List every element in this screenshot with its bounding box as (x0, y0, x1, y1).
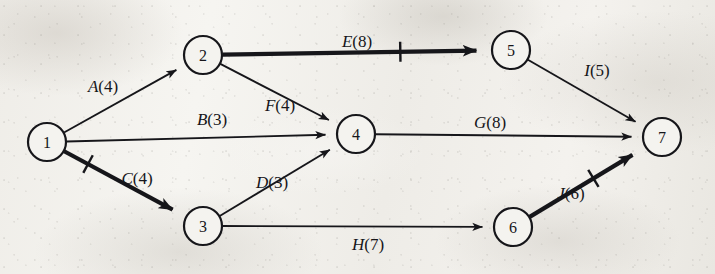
node-label-1: 1 (43, 134, 51, 151)
edge-label-J: J(6) (557, 184, 584, 203)
svg-text:H(7): H(7) (351, 235, 384, 254)
edge-C (64, 151, 172, 209)
node-4[interactable]: 4 (337, 115, 375, 153)
edge-label-B: B(3) (197, 110, 227, 129)
edge-label-G: G(8) (474, 113, 506, 132)
node-label-5: 5 (507, 42, 515, 59)
network-diagram-canvas: 1234567 A(4)B(3)C(4)D(3)E(8)F(4)G(8)H(7)… (0, 0, 715, 274)
svg-text:C(4): C(4) (121, 169, 152, 188)
node-1[interactable]: 1 (28, 123, 66, 161)
edge-label-F: F(4) (264, 96, 295, 115)
node-label-6: 6 (509, 219, 517, 236)
edge-label-H: H(7) (351, 235, 384, 254)
edge-A (64, 70, 176, 133)
node-3[interactable]: 3 (184, 207, 222, 245)
svg-text:B(3): B(3) (197, 110, 227, 129)
node-6[interactable]: 6 (494, 208, 532, 246)
nodes-layer: 1234567 (28, 31, 681, 246)
edge-I (528, 60, 636, 122)
svg-text:D(3): D(3) (255, 173, 288, 192)
svg-text:A(4): A(4) (87, 77, 118, 96)
svg-text:E(8): E(8) (341, 32, 372, 51)
svg-text:G(8): G(8) (474, 113, 506, 132)
edge-label-C: C(4) (121, 169, 152, 188)
node-label-4: 4 (352, 126, 360, 143)
node-5[interactable]: 5 (492, 31, 530, 69)
node-label-3: 3 (199, 218, 207, 235)
node-7[interactable]: 7 (643, 118, 681, 156)
network-graph: 1234567 A(4)B(3)C(4)D(3)E(8)F(4)G(8)H(7)… (0, 0, 715, 274)
edge-G (376, 134, 632, 137)
svg-text:I(5): I(5) (583, 61, 610, 80)
node-label-2: 2 (199, 47, 207, 64)
edge-E (223, 51, 477, 55)
svg-text:J(6): J(6) (557, 184, 584, 203)
edge-label-A: A(4) (87, 77, 118, 96)
edge-H (223, 226, 483, 227)
edge-label-E: E(8) (341, 32, 372, 51)
edge-label-I: I(5) (583, 61, 610, 80)
edge-B (66, 135, 325, 142)
svg-text:F(4): F(4) (264, 96, 295, 115)
edge-label-D: D(3) (255, 173, 288, 192)
node-label-7: 7 (658, 129, 666, 146)
node-2[interactable]: 2 (184, 36, 222, 74)
